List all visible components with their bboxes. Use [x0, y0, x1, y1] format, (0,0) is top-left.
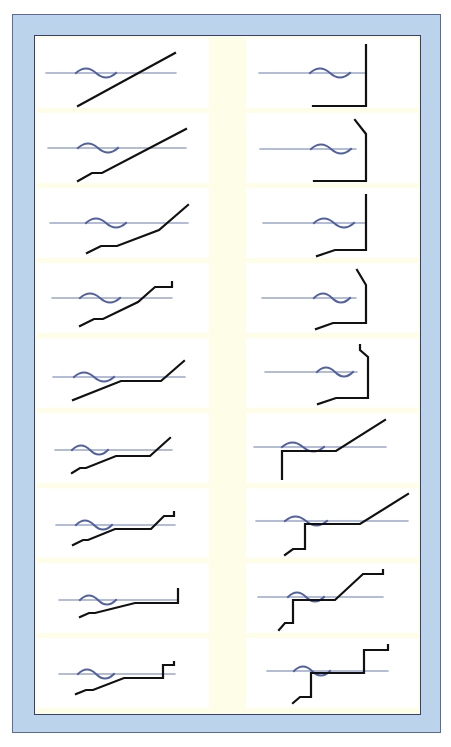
cell-right [246, 338, 418, 408]
cell-right [246, 413, 418, 483]
cell-left [37, 338, 209, 408]
cell-left [37, 638, 209, 708]
cell-left [37, 413, 209, 483]
profiles-diagram [0, 0, 451, 747]
cell-left [37, 563, 209, 633]
cell-right [246, 563, 418, 633]
cell-left [37, 488, 209, 558]
cell-right [246, 113, 418, 183]
